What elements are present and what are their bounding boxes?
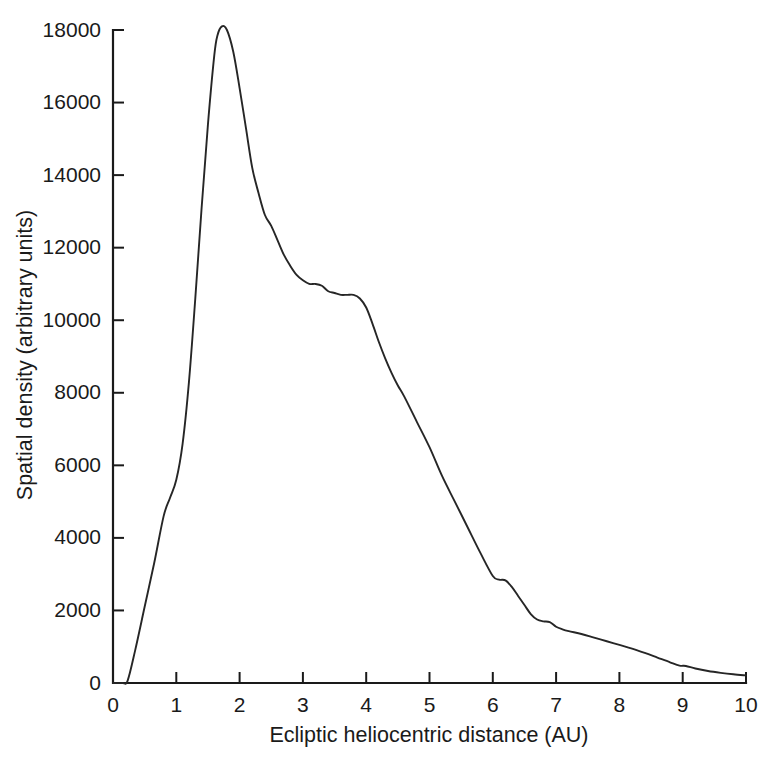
x-axis-title: Ecliptic heliocentric distance (AU)	[269, 723, 588, 747]
y-tick-label: 12000	[43, 235, 101, 258]
y-tick-label: 18000	[43, 18, 101, 41]
y-axis-ticks: 0200040006000800010000120001400016000180…	[43, 18, 124, 694]
x-tick-label: 8	[614, 693, 626, 716]
y-tick-label: 6000	[54, 453, 101, 476]
x-tick-label: 10	[734, 693, 757, 716]
y-tick-label: 0	[89, 671, 101, 694]
figure-panel: Spatial density (arbitrary units) Eclipt…	[0, 0, 775, 761]
y-tick-label: 16000	[43, 90, 101, 113]
x-tick-label: 9	[677, 693, 689, 716]
x-tick-label: 2	[234, 693, 246, 716]
x-tick-label: 5	[424, 693, 436, 716]
x-tick-label: 4	[360, 693, 372, 716]
y-tick-label: 14000	[43, 163, 101, 186]
x-tick-label: 1	[170, 693, 182, 716]
page-caption-fragment	[0, 747, 775, 761]
x-tick-label: 0	[107, 693, 119, 716]
y-tick-label: 2000	[54, 598, 101, 621]
y-tick-label: 10000	[43, 308, 101, 331]
x-tick-label: 3	[297, 693, 309, 716]
x-tick-label: 7	[550, 693, 562, 716]
y-axis-title: Spatial density (arbitrary units)	[13, 210, 37, 500]
y-tick-label: 4000	[54, 525, 101, 548]
x-axis-ticks: 012345678910	[107, 672, 758, 716]
density-curve	[113, 26, 746, 684]
x-tick-label: 6	[487, 693, 499, 716]
y-tick-label: 8000	[54, 380, 101, 403]
density-line-chart: Spatial density (arbitrary units) Eclipt…	[0, 0, 775, 761]
